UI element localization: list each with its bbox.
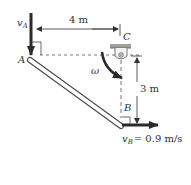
label-v-b: vB= 0.9 m/s — [122, 133, 182, 146]
label-b: B — [123, 102, 131, 113]
label-omega: ω — [91, 65, 99, 76]
label-a: A — [17, 54, 25, 65]
kinematics-diagram: vA 4 m C A ω 3 m B vB= 0.9 m/s — [0, 0, 191, 185]
label-v-a: vA — [17, 17, 28, 30]
pin-support-c — [110, 44, 131, 59]
right-angle-marker-b — [122, 117, 130, 124]
label-3m: 3 m — [140, 83, 160, 94]
bar-ab — [30, 60, 121, 126]
label-c: C — [123, 31, 131, 42]
label-4m: 4 m — [69, 14, 89, 25]
right-angle-marker-a — [32, 42, 41, 55]
